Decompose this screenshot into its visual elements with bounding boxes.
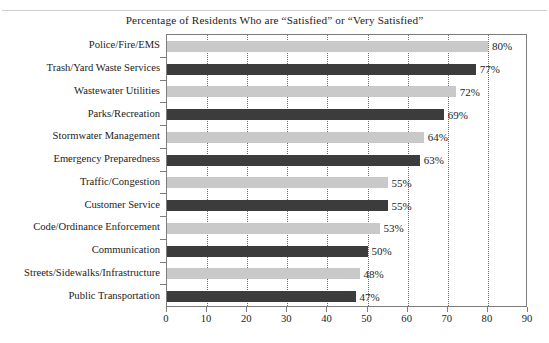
bar[interactable] bbox=[167, 86, 456, 97]
bar-value-label: 55% bbox=[392, 200, 412, 212]
bar-row: 63% bbox=[167, 149, 526, 172]
bar-value-label: 48% bbox=[364, 268, 384, 280]
category-tick bbox=[160, 284, 166, 285]
category-label: Public Transportation bbox=[0, 290, 160, 302]
category-axis-labels: Police/Fire/EMSTrash/Yard Waste Services… bbox=[0, 34, 160, 307]
bar[interactable] bbox=[167, 177, 388, 188]
bar[interactable] bbox=[167, 291, 356, 302]
bar-value-label: 80% bbox=[492, 40, 512, 52]
bar-value-label: 55% bbox=[392, 177, 412, 189]
bar-value-label: 50% bbox=[372, 245, 392, 257]
bar-series: 80%77%72%69%64%63%55%55%53%50%48%47% bbox=[167, 35, 526, 306]
bar[interactable] bbox=[167, 64, 476, 75]
bar-row: 64% bbox=[167, 126, 526, 149]
category-tick bbox=[160, 80, 166, 81]
bar-row: 53% bbox=[167, 217, 526, 240]
page-rule-divider bbox=[2, 10, 547, 11]
category-label: Trash/Yard Waste Services bbox=[0, 62, 160, 74]
value-tick-0 bbox=[166, 307, 167, 312]
category-tick bbox=[160, 171, 166, 172]
value-tick-80 bbox=[487, 307, 488, 312]
value-tick-label: 50 bbox=[361, 313, 372, 324]
value-tick-40 bbox=[326, 307, 327, 312]
category-label: Customer Service bbox=[0, 199, 160, 211]
bar-value-label: 47% bbox=[360, 291, 380, 303]
value-tick-label: 40 bbox=[321, 313, 332, 324]
category-label: Police/Fire/EMS bbox=[0, 39, 160, 51]
category-label: Communication bbox=[0, 244, 160, 256]
bar-row: 50% bbox=[167, 240, 526, 263]
bar-row: 55% bbox=[167, 172, 526, 195]
value-tick-30 bbox=[286, 307, 287, 312]
category-label: Parks/Recreation bbox=[0, 108, 160, 120]
bar-row: 55% bbox=[167, 194, 526, 217]
bar[interactable] bbox=[167, 246, 368, 257]
bar[interactable] bbox=[167, 223, 380, 234]
bar[interactable] bbox=[167, 268, 360, 279]
bar-row: 80% bbox=[167, 35, 526, 58]
bar-row: 72% bbox=[167, 81, 526, 104]
category-label: Code/Ordinance Enforcement bbox=[0, 221, 160, 233]
category-label: Traffic/Congestion bbox=[0, 176, 160, 188]
bar-value-label: 69% bbox=[448, 109, 468, 121]
category-tick bbox=[160, 102, 166, 103]
bar-value-label: 63% bbox=[424, 154, 444, 166]
value-tick-90 bbox=[527, 307, 528, 312]
plot-area: 80%77%72%69%64%63%55%55%53%50%48%47% bbox=[166, 34, 527, 307]
category-label: Stormwater Management bbox=[0, 130, 160, 142]
bar-row: 69% bbox=[167, 103, 526, 126]
category-tick bbox=[160, 193, 166, 194]
value-tick-20 bbox=[246, 307, 247, 312]
category-label: Emergency Preparedness bbox=[0, 153, 160, 165]
category-tick bbox=[160, 239, 166, 240]
bar-value-label: 64% bbox=[428, 131, 448, 143]
bar[interactable] bbox=[167, 200, 388, 211]
chart-page: Percentage of Residents Who are “Satisfi… bbox=[0, 0, 549, 343]
bar-row: 48% bbox=[167, 263, 526, 286]
value-tick-70 bbox=[447, 307, 448, 312]
value-tick-label: 90 bbox=[522, 313, 533, 324]
value-tick-60 bbox=[407, 307, 408, 312]
bar-row: 77% bbox=[167, 58, 526, 81]
category-tick bbox=[160, 148, 166, 149]
value-tick-label: 70 bbox=[441, 313, 452, 324]
value-tick-label: 30 bbox=[281, 313, 292, 324]
value-tick-10 bbox=[206, 307, 207, 312]
category-label: Streets/Sidewalks/Infrastructure bbox=[0, 267, 160, 279]
bar[interactable] bbox=[167, 132, 424, 143]
value-tick-label: 10 bbox=[201, 313, 212, 324]
value-axis: 0102030405060708090 bbox=[166, 307, 527, 343]
bar[interactable] bbox=[167, 109, 444, 120]
bar[interactable] bbox=[167, 41, 488, 52]
bar-value-label: 72% bbox=[460, 86, 480, 98]
category-tick bbox=[160, 262, 166, 263]
bar-value-label: 53% bbox=[384, 222, 404, 234]
bar-row: 47% bbox=[167, 285, 526, 308]
category-label: Wastewater Utilities bbox=[0, 85, 160, 97]
category-tick bbox=[160, 216, 166, 217]
value-tick-50 bbox=[367, 307, 368, 312]
value-tick-label: 60 bbox=[401, 313, 412, 324]
chart-title: Percentage of Residents Who are “Satisfi… bbox=[0, 14, 549, 26]
category-tick bbox=[160, 125, 166, 126]
value-tick-label: 20 bbox=[241, 313, 252, 324]
value-tick-label: 0 bbox=[163, 313, 168, 324]
bar-value-label: 77% bbox=[480, 63, 500, 75]
bar[interactable] bbox=[167, 155, 420, 166]
value-tick-label: 80 bbox=[482, 313, 493, 324]
category-tick bbox=[160, 57, 166, 58]
